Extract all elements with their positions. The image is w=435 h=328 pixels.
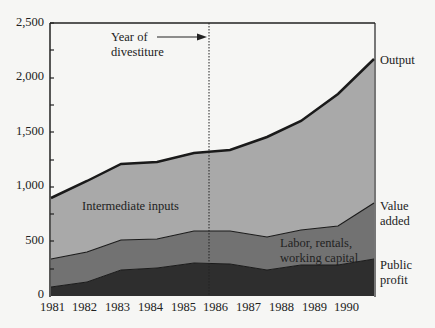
labor-label-line1: Labor, rentals, xyxy=(280,236,352,250)
value-added-label-line2: added xyxy=(380,214,410,228)
x-tick-label: 1990 xyxy=(334,300,359,315)
y-tick-label: 500 xyxy=(0,233,44,248)
y-tick-label: 2,000 xyxy=(0,69,44,84)
x-tick-label: 1984 xyxy=(138,300,163,315)
labor-label-line2: working capital xyxy=(280,251,358,265)
arrow-head-icon xyxy=(197,34,207,41)
stacked-area-chart xyxy=(0,0,435,328)
y-tick-label: 0 xyxy=(0,287,44,302)
y-tick-label: 1,500 xyxy=(0,124,44,139)
x-tick-label: 1983 xyxy=(105,300,130,315)
public-profit-label-line1: Public xyxy=(380,258,412,272)
annotation-label-line1: Year of xyxy=(111,30,148,44)
annotation-label-line2: divestiture xyxy=(111,45,164,59)
y-tick-label: 2,500 xyxy=(0,15,44,30)
x-tick-label: 1985 xyxy=(171,300,196,315)
x-tick-label: 1981 xyxy=(40,300,65,315)
value-added-label-line1: Value xyxy=(380,199,408,213)
y-tick-label: 1,000 xyxy=(0,178,44,193)
x-tick-label: 1987 xyxy=(236,300,261,315)
x-tick-label: 1989 xyxy=(302,300,327,315)
intermediate-inputs-label: Intermediate inputs xyxy=(82,199,179,213)
x-tick-label: 1982 xyxy=(72,300,97,315)
output-label: Output xyxy=(380,53,415,67)
x-tick-label: 1988 xyxy=(269,300,294,315)
public-profit-label-line2: profit xyxy=(380,273,408,287)
x-tick-label: 1986 xyxy=(203,300,228,315)
